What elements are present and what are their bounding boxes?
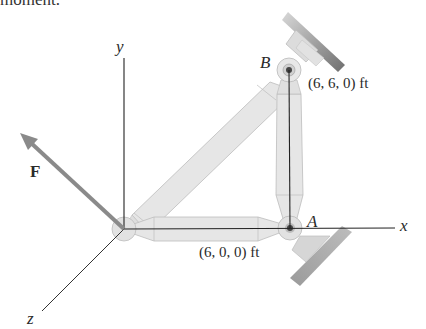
y-axis-label: y: [116, 38, 124, 55]
member-ob: [124, 82, 287, 233]
z-axis: [42, 229, 124, 311]
point-b-label: B: [260, 54, 270, 71]
coordinate-axes: [42, 58, 395, 311]
force-arrow: [20, 133, 124, 229]
z-axis-label: z: [27, 310, 34, 327]
point-b-coords: (6, 6, 0) ft: [308, 76, 368, 91]
truss-diagram: [0, 0, 426, 329]
x-axis-label: x: [400, 217, 408, 234]
point-a-label: A: [307, 213, 317, 230]
force-label: F: [30, 163, 40, 180]
point-a-coords: (6, 0, 0) ft: [199, 245, 259, 260]
